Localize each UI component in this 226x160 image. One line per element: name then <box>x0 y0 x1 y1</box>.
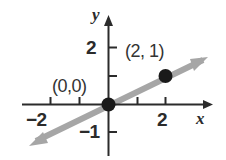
graphed-line <box>29 57 208 146</box>
point-label-origin: (0,0) <box>52 77 87 95</box>
line-arrow-up-right-icon <box>190 57 208 71</box>
line-segment <box>36 60 203 141</box>
y-axis <box>104 15 117 156</box>
y-axis-arrow-icon <box>104 15 113 26</box>
y-tick-label-2: 2 <box>86 38 96 57</box>
point-label-2-1: (2, 1) <box>125 42 164 60</box>
y-tick-label--1: −1 <box>79 122 100 141</box>
x-axis-arrow-icon <box>203 100 213 109</box>
x-tick-label--2: −2 <box>26 110 47 129</box>
y-axis-label: y <box>92 6 100 23</box>
data-point-origin <box>102 98 116 112</box>
data-point-2-1 <box>159 69 173 83</box>
coordinate-plane-figure: y x 2 −1 2 −2 (0,0) (2, 1) <box>0 0 226 160</box>
x-axis-label: x <box>196 110 205 127</box>
x-tick-label-2: 2 <box>157 110 167 129</box>
graph-canvas <box>0 0 226 160</box>
